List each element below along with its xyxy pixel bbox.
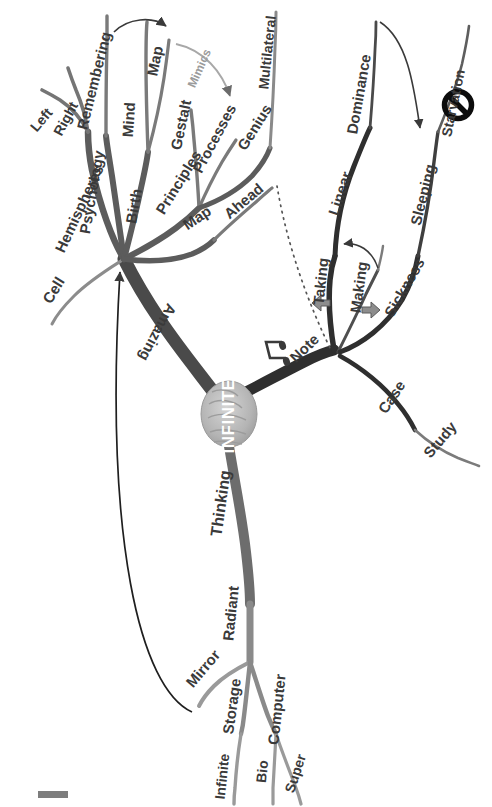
corner-marker	[38, 791, 68, 798]
label-radiant: Radiant	[219, 585, 242, 641]
label-making: Making	[347, 260, 371, 314]
mindmap-svg: INFINITE Amazing Hemispheres Left Right …	[0, 0, 492, 807]
label-computer: Computer	[264, 673, 288, 745]
branch-case-study	[340, 356, 479, 466]
connector-dominance-to-sleeping	[380, 22, 420, 128]
label-infinite: Infinite	[212, 753, 233, 801]
label-sickness: Sickness	[381, 255, 428, 320]
branch-amazing	[124, 259, 218, 398]
label-birth: Birth	[122, 187, 145, 224]
label-mimics: Mimics	[185, 47, 214, 90]
connector-remembering-to-map	[114, 20, 166, 32]
label-bio: Bio	[253, 759, 271, 783]
label-mind: Mind	[119, 102, 138, 138]
label-thinking: Thinking	[207, 469, 233, 537]
label-processes: Processes	[189, 101, 239, 175]
label-gestalt: Gestalt	[167, 98, 194, 151]
branch-note	[240, 350, 334, 395]
label-storage: Storage	[219, 677, 244, 735]
label-cell: Cell	[39, 274, 68, 306]
center-label: INFINITE	[219, 379, 238, 454]
mindmap-canvas: INFINITE Amazing Hemispheres Left Right …	[0, 0, 492, 807]
branch-cell	[52, 259, 124, 324]
label-linear: Linear	[325, 169, 355, 217]
label-sleeping: Sleeping	[407, 162, 439, 227]
